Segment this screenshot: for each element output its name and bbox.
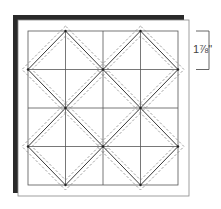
quilt-diagram [0, 0, 221, 209]
dimension-label: 1⅞" [193, 43, 212, 55]
